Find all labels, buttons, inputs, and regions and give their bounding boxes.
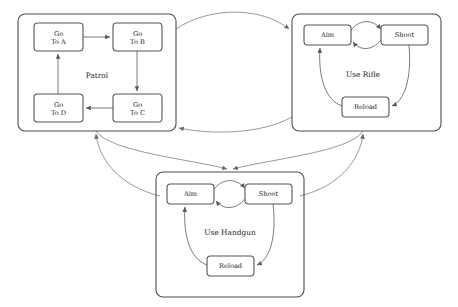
transition-edge-rifle-aim-to-shoot — [351, 22, 381, 30]
state-label-go-to-c: Go — [133, 101, 142, 109]
transition-edge-rifle-to-handgun — [233, 131, 363, 169]
state-label-handgun-shoot: Shoot — [259, 190, 279, 198]
transition-edge-patrol-to-rifle — [176, 12, 289, 29]
transition-edge-handgun-to-patrol — [96, 134, 160, 196]
state-label-go-to-c-line2: To C — [130, 109, 145, 117]
transition-edge-rifle-shoot-to-aim — [353, 40, 381, 49]
state-label-go-to-d: Go — [54, 101, 63, 109]
transition-edge-rifle-shoot-to-reload — [392, 45, 410, 106]
group-label-use-handgun: Use Handgun — [204, 228, 256, 237]
transition-edge-handgun-aim-to-shoot — [214, 181, 245, 189]
transition-edge-handgun-shoot-to-reload — [257, 204, 274, 265]
diagram-canvas: PatrolUse RifleUse Handgun GoTo AGoTo BG… — [0, 0, 458, 307]
state-nodes: GoTo AGoTo BGoTo CGoTo DAimShootReloadAi… — [34, 23, 428, 276]
state-label-go-to-a-line2: To A — [51, 38, 66, 46]
state-label-go-to-d-line2: To D — [51, 109, 66, 117]
state-label-handgun-aim: Aim — [183, 190, 198, 198]
group-label-use-rifle: Use Rifle — [346, 70, 380, 79]
transition-edge-handgun-to-rifle — [300, 134, 363, 196]
state-label-go-to-b: Go — [133, 30, 142, 38]
transition-edge-handgun-shoot-to-aim — [216, 199, 245, 208]
group-containers: PatrolUse RifleUse Handgun — [18, 14, 441, 297]
state-label-handgun-reload: Reload — [219, 262, 243, 270]
state-label-go-to-a: Go — [54, 30, 63, 38]
group-label-patrol: Patrol — [86, 71, 109, 80]
state-label-rifle-shoot: Shoot — [395, 31, 415, 39]
state-label-go-to-b-line2: To B — [130, 38, 145, 46]
transition-edge-rifle-to-patrol — [179, 117, 292, 132]
state-label-rifle-reload: Reload — [354, 103, 378, 111]
state-machine-diagram: PatrolUse RifleUse Handgun GoTo AGoTo BG… — [0, 0, 458, 307]
state-label-rifle-aim: Aim — [320, 31, 335, 39]
transition-edge-rifle-reload-to-aim — [320, 48, 342, 106]
transition-edge-patrol-to-handgun — [96, 131, 227, 169]
